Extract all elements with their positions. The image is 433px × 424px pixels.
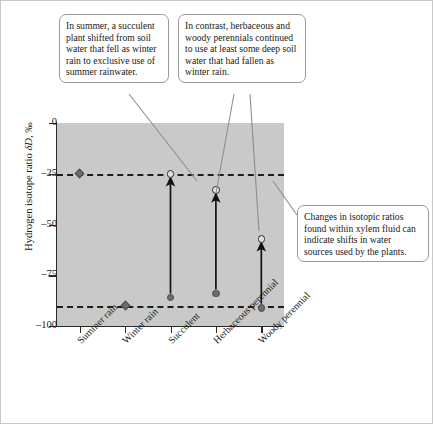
y-axis-tick-label: –50: [13, 219, 57, 229]
data-point-open-circle-2-1: [212, 186, 220, 194]
annotation-callout-succulent: In summer, a succulent plant shifted fro…: [59, 14, 169, 83]
figure-container: Hydrogen isotope ratio δD, ‰ 0–25–50–75–…: [0, 0, 433, 424]
data-point-filled-circle-1-2: [258, 304, 266, 312]
y-axis-tick-label: –100: [13, 320, 57, 330]
annotation-callout-perennials: In contrast, herbaceous and woody perenn…: [178, 14, 306, 83]
y-axis-tick-label: 0: [13, 117, 57, 127]
winter-rain-reference: [57, 306, 284, 308]
data-point-open-circle-2-2: [258, 235, 266, 243]
y-axis-tick-label: –25: [13, 168, 57, 178]
data-point-open-circle-2-0: [167, 170, 175, 178]
y-axis-title-text-pre: Hydrogen isotope ratio: [23, 151, 34, 251]
data-point-filled-circle-1-1: [212, 290, 220, 298]
y-axis-tick-label: –75: [13, 269, 57, 279]
y-axis-title-delta-symbol: δD: [23, 138, 34, 151]
annotation-callout-isotopic-ratios: Changes in isotopic ratios found within …: [297, 205, 429, 262]
